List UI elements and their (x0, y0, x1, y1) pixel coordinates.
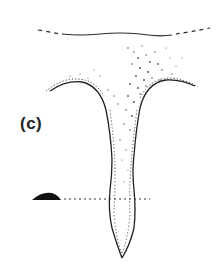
stippled-fill (69, 45, 182, 182)
funnel-conduit-outline (50, 80, 195, 258)
panel-label: (c) (20, 114, 42, 134)
black-lens-blob (32, 193, 61, 200)
top-surface-line (38, 28, 210, 36)
funnel-dotted-outline (46, 78, 198, 98)
